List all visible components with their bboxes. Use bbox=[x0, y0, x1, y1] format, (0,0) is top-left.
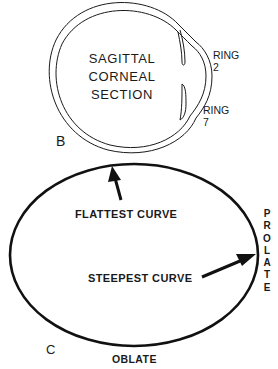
ring-7-label-number: 7 bbox=[203, 116, 229, 128]
prolate-letter: L bbox=[262, 245, 272, 257]
steepest-curve-arrow bbox=[202, 254, 256, 277]
section-title-line-3: SECTION bbox=[62, 88, 182, 101]
panel-b-letter: B bbox=[56, 134, 65, 148]
prolate-letter: A bbox=[262, 257, 272, 269]
flattest-curve-label: FLATTEST CURVE bbox=[75, 209, 177, 220]
ring-2-label-number: 2 bbox=[213, 61, 239, 73]
flattest-curve-arrow bbox=[108, 166, 121, 200]
cornea-ellipse bbox=[10, 164, 258, 346]
ring-7-label-word: RING bbox=[203, 104, 229, 116]
section-title-line-1: SAGITTAL bbox=[62, 52, 182, 65]
section-title-line-2: CORNEAL bbox=[62, 70, 182, 83]
oblate-label: OBLATE bbox=[112, 354, 157, 365]
prolate-letter: O bbox=[262, 233, 272, 245]
prolate-letter: E bbox=[262, 282, 272, 294]
ring-7-label: RING 7 bbox=[203, 104, 229, 128]
panel-c-letter: C bbox=[46, 343, 55, 356]
ring-2-label: RING 2 bbox=[213, 49, 239, 73]
prolate-letter: T bbox=[262, 269, 272, 281]
prolate-label: P R O L A T E bbox=[262, 208, 272, 294]
ring-2-label-word: RING bbox=[213, 49, 239, 61]
steepest-curve-label: STEEPEST CURVE bbox=[88, 273, 192, 284]
prolate-letter: R bbox=[262, 220, 272, 232]
prolate-letter: P bbox=[262, 208, 272, 220]
